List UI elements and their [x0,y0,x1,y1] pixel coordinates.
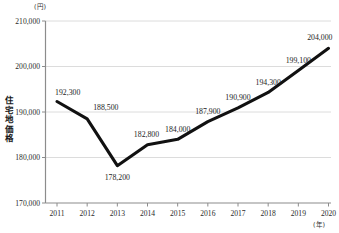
gridlines-group [46,21,332,158]
y-tick-label: 200,000 [15,62,40,71]
data-point-labels-group: 192,300188,500178,200182,800184,000187,9… [55,33,333,181]
x-tick-label: 2016 [200,209,215,218]
y-tick-label: 170,000 [15,199,40,208]
y-tick-label: 180,000 [15,153,40,162]
y-tick-labels-group: 170,000180,000190,000200,000210,000 [15,17,45,208]
x-tick-label: 2012 [80,209,95,218]
data-point-label: 184,000 [165,125,190,134]
x-tick-label: 2014 [140,209,155,218]
data-point-label: 178,200 [105,173,130,182]
data-point-label: 192,300 [55,88,80,97]
y-axis-unit-label: (円) [34,1,46,11]
x-tick-labels-group: 2011201220132014201520162017201820192020 [50,209,337,218]
y-axis-title-char: 格 [2,134,16,144]
x-axis-unit-label: (年) [313,219,325,229]
data-point-label: 187,900 [195,107,220,116]
data-point-label: 204,000 [307,33,332,42]
data-point-label: 194,300 [255,78,280,87]
chart-container: (円) 住 宅 地 価 格 (年) 170,000180,000190,0002… [0,0,339,233]
y-axis-title: 住 宅 地 価 格 [2,96,16,144]
data-point-label: 199,100 [286,56,311,65]
x-tick-label: 2019 [291,209,306,218]
line-chart-plot: 170,000180,000190,000200,000210,000 2011… [0,0,339,233]
x-tick-label: 2017 [230,209,245,218]
x-tick-label: 2011 [50,209,65,218]
data-point-label: 182,800 [134,130,159,139]
y-tick-label: 190,000 [15,108,40,117]
x-tick-label: 2013 [110,209,125,218]
x-tick-label: 2018 [261,209,276,218]
y-tick-label: 210,000 [15,17,40,26]
data-point-label: 188,500 [93,103,118,112]
x-tick-label: 2015 [170,209,185,218]
data-point-label: 190,900 [225,93,250,102]
x-tick-label: 2020 [321,209,336,218]
